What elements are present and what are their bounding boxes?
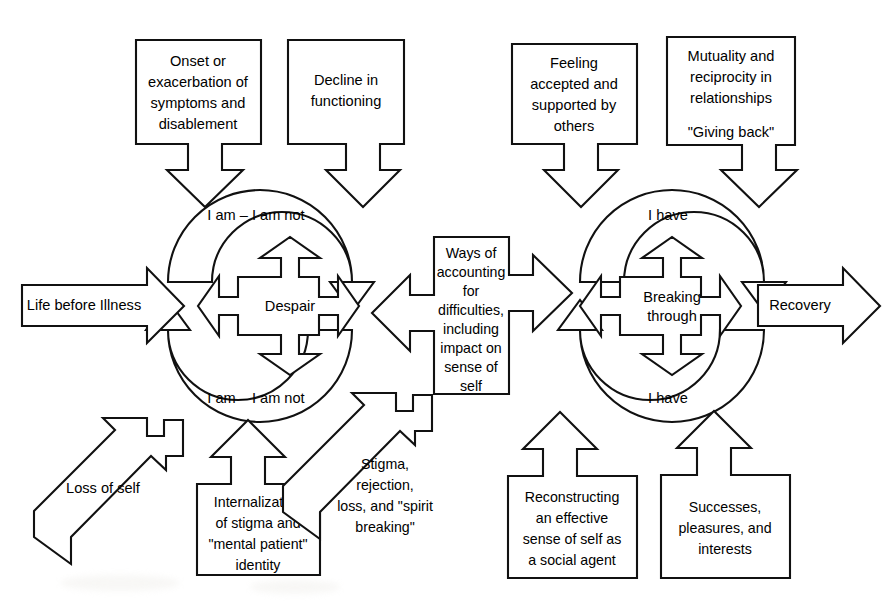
ways-line5: including	[443, 321, 499, 337]
breaking-through-label-line1: Breaking	[643, 289, 701, 305]
right-lower-loop-label: I have	[648, 390, 688, 406]
box-accepted-line2: accepted and	[530, 76, 618, 92]
shape-stigma-rejection-body	[283, 393, 432, 539]
box-accepted-line3: supported by	[532, 97, 617, 113]
successes-line3: interests	[698, 541, 752, 557]
ways-line7: sense of	[444, 359, 498, 375]
box-decline-line1: Decline in	[314, 72, 378, 88]
internalization-line4: identity	[236, 557, 282, 573]
ways-line2: accounting	[437, 264, 506, 280]
internalization-line3: "mental patient"	[208, 536, 307, 552]
ways-line8: self	[460, 378, 482, 394]
recovery-process-diagram: Despair I am – I am not I am – I am not …	[0, 0, 894, 604]
successes-line1: Successes,	[689, 499, 762, 515]
stigma-line3: loss, and "spirit	[337, 498, 433, 514]
recovery-label: Recovery	[769, 297, 831, 313]
ways-line1: Ways of	[446, 245, 497, 261]
ways-line3: for	[463, 283, 480, 299]
box-accepted-line1: Feeling	[550, 55, 598, 71]
box-onset-line4: disablement	[159, 116, 238, 132]
ways-line4: difficulties,	[438, 302, 504, 318]
box-mutuality-line3: relationships	[690, 90, 772, 106]
box-onset-line3: symptoms and	[151, 95, 246, 111]
box-decline-functioning	[288, 40, 404, 207]
left-upper-loop-label: I am – I am not	[207, 207, 304, 223]
box-mutuality-line1: Mutuality and	[688, 48, 775, 64]
left-lower-loop-label: I am – I am not	[207, 390, 304, 406]
box-onset-line2: exacerbation of	[148, 74, 249, 90]
reconstructing-line1: Reconstructing	[525, 489, 620, 505]
box-onset-line1: Onset or	[170, 53, 226, 69]
internalization-line2: of stigma and	[215, 515, 300, 531]
despair-label: Despair	[265, 298, 315, 314]
box-accepted-line4: others	[554, 118, 595, 134]
life-before-illness-label: Life before Illness	[27, 297, 141, 313]
reconstructing-line4: a social agent	[528, 552, 616, 568]
stigma-line2: rejection,	[356, 477, 414, 493]
breaking-through-label-line2: through	[647, 308, 697, 324]
box-mutuality-line2: reciprocity in	[690, 69, 772, 85]
reconstructing-line2: an effective	[536, 510, 608, 526]
box-decline-line2: functioning	[311, 93, 382, 109]
ways-line6: impact on	[440, 340, 502, 356]
reconstructing-line3: sense of self as	[523, 531, 622, 547]
stigma-line1: Stigma,	[361, 456, 409, 472]
loss-of-self-label: Loss of self	[66, 480, 141, 496]
stigma-line4: breaking"	[355, 519, 414, 535]
successes-line2: pleasures, and	[678, 520, 771, 536]
right-upper-loop-label: I have	[648, 207, 688, 223]
box-mutuality-line5: "Giving back"	[688, 124, 775, 140]
